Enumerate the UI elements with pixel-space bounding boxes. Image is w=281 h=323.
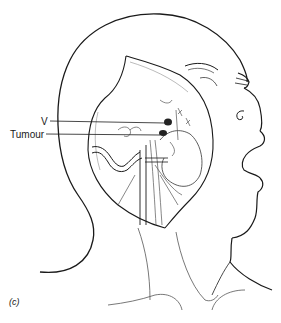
face-profile	[212, 73, 272, 295]
neck-lines	[108, 228, 245, 310]
panel-label: (c)	[9, 298, 20, 307]
head-outline	[40, 14, 247, 273]
annotation-v: V	[41, 117, 48, 127]
annotation-tumour: Tumour	[10, 130, 44, 140]
dark-structure-v	[159, 119, 172, 137]
medical-illustration	[0, 0, 281, 323]
exposed-anatomy	[92, 100, 202, 225]
leader-lines	[46, 121, 165, 135]
